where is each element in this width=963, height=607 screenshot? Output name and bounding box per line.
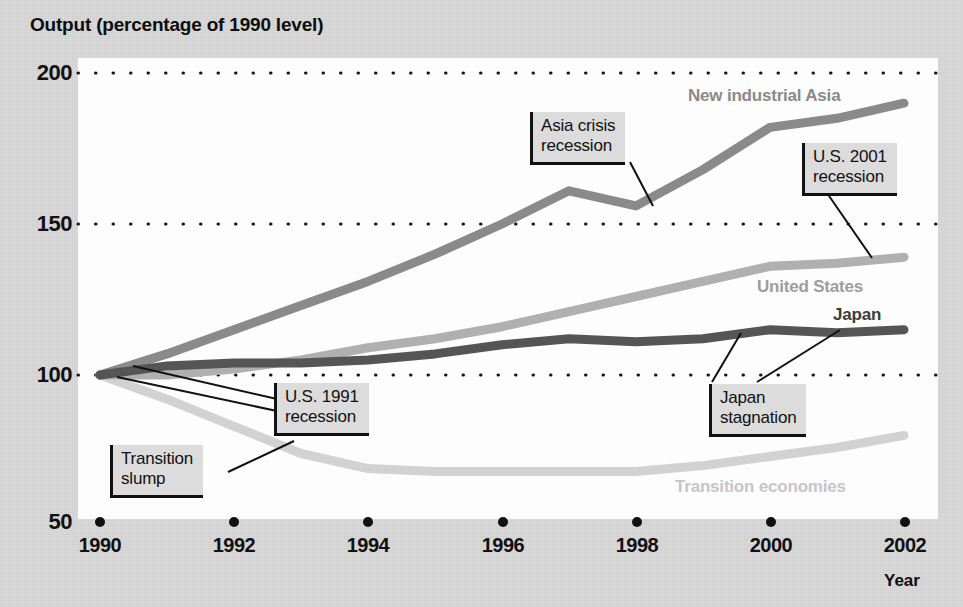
annotation-asia-crisis-line2: recession bbox=[541, 136, 615, 156]
series-label-japan: Japan bbox=[833, 305, 881, 325]
annotation-transition-slump: Transition slump bbox=[110, 445, 203, 498]
annotation-us-2001-recession: U.S. 2001 recession bbox=[802, 143, 897, 196]
annotation-asia-crisis-line1: Asia crisis bbox=[541, 116, 615, 136]
annotation-us-2001-line2: recession bbox=[813, 167, 887, 187]
annotation-japan-stagnation: Japan stagnation bbox=[709, 384, 806, 437]
annotation-transition-slump-line1: Transition bbox=[121, 449, 193, 469]
figure-panel: Output (percentage of 1990 level) Year 2… bbox=[0, 0, 963, 607]
annotation-transition-slump-line2: slump bbox=[121, 469, 193, 489]
series-label-transition-economies: Transition economies bbox=[675, 477, 846, 497]
series-label-new-industrial-asia: New industrial Asia bbox=[688, 86, 840, 106]
series-line-united-states bbox=[100, 257, 904, 375]
annotation-us-1991-line1: U.S. 1991 bbox=[285, 387, 359, 407]
annotation-us-1991-recession: U.S. 1991 recession bbox=[274, 383, 369, 436]
annotation-us-2001-line1: U.S. 2001 bbox=[813, 147, 887, 167]
annotation-us-1991-line2: recession bbox=[285, 407, 359, 427]
annotation-japan-stagnation-line2: stagnation bbox=[720, 408, 796, 428]
annotation-asia-crisis-recession: Asia crisis recession bbox=[530, 112, 625, 165]
series-label-united-states: United States bbox=[757, 277, 863, 297]
annotation-japan-stagnation-line1: Japan bbox=[720, 388, 796, 408]
